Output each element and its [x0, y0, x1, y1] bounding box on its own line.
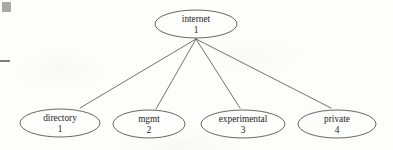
node-mgmt-number: 2 — [147, 125, 152, 135]
node-private-number: 4 — [335, 125, 340, 135]
node-experimental[interactable]: experimental 3 — [201, 110, 285, 138]
node-internet[interactable]: internet 1 — [155, 10, 237, 38]
node-experimental-number: 3 — [241, 125, 246, 135]
node-mgmt[interactable]: mgmt 2 — [113, 110, 185, 138]
node-internet-number: 1 — [194, 25, 199, 35]
node-directory[interactable]: directory 1 — [20, 109, 100, 137]
node-directory-number: 1 — [58, 124, 63, 134]
tree-diagram: internet 1 directory 1 mgmt 2 experiment… — [0, 0, 393, 150]
node-mgmt-label: mgmt — [138, 114, 160, 124]
edge-group — [80, 39, 331, 109]
edge-internet-to-private — [196, 39, 331, 108]
node-experimental-label: experimental — [219, 114, 268, 124]
node-internet-label: internet — [182, 14, 211, 24]
node-directory-label: directory — [43, 113, 77, 123]
edge-internet-to-directory — [80, 39, 196, 108]
edge-internet-to-mgmt — [156, 39, 196, 109]
edge-internet-to-experimental — [196, 39, 240, 108]
node-private-label: private — [324, 114, 350, 124]
node-private[interactable]: private 4 — [298, 110, 376, 138]
diagram-page: internet 1 directory 1 mgmt 2 experiment… — [0, 0, 393, 150]
